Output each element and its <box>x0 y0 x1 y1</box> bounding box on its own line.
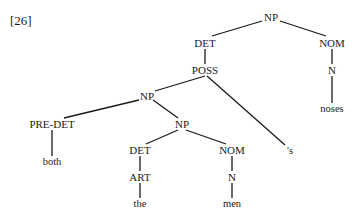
node-nom-low: NOM <box>219 144 245 156</box>
node-np-root: NP <box>264 11 278 23</box>
tree-edges <box>0 0 354 217</box>
node-np-mid: NP <box>140 90 154 102</box>
tree-branch <box>64 100 139 118</box>
node-np-low: NP <box>175 118 189 130</box>
node-nom-top: NOM <box>319 37 345 49</box>
node-det-low: DET <box>129 144 150 156</box>
tree-branch <box>153 100 178 118</box>
leaf-word-both: both <box>43 156 62 168</box>
tree-branch <box>155 76 205 91</box>
node-det-top: DET <box>194 37 215 49</box>
tree-branch <box>186 130 226 144</box>
tree-branch <box>280 21 326 36</box>
leaf-word-the: the <box>134 198 147 210</box>
node-art: ART <box>129 171 150 183</box>
tree-branch <box>146 130 178 144</box>
node-n-top: N <box>328 64 336 76</box>
node-poss: POSS <box>192 64 218 76</box>
tree-branch <box>212 21 262 36</box>
tree-branch <box>207 76 285 145</box>
leaf-word-men: men <box>223 198 241 210</box>
node-predet: PRE-DET <box>29 118 74 130</box>
leaf-word-apos-s: 's <box>287 145 293 157</box>
leaf-word-noses: noses <box>320 103 343 115</box>
node-n-low: N <box>228 171 236 183</box>
